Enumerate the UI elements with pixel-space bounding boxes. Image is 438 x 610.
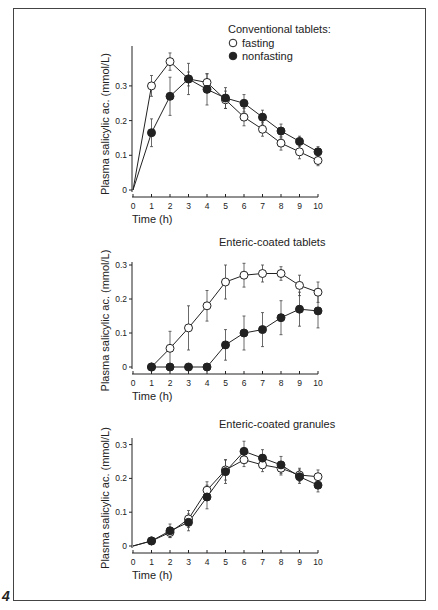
- filled-circle-marker: [314, 481, 322, 489]
- filled-circle-marker: [259, 454, 267, 462]
- filled-circle-marker: [148, 537, 156, 545]
- filled-circle-marker: [166, 527, 174, 535]
- x-tick-label: 6: [242, 557, 247, 567]
- y-tick-label: 0.2: [115, 473, 127, 483]
- y-tick-label: 0.1: [115, 507, 127, 517]
- x-tick-label: 1: [149, 557, 154, 567]
- x-tick-label: 4: [205, 557, 210, 567]
- filled-circle-marker: [240, 447, 248, 455]
- x-tick-label: 9: [297, 557, 302, 567]
- series-nonfasting: [133, 441, 320, 546]
- open-circle-marker: [314, 473, 322, 481]
- x-tick-label: 3: [186, 557, 191, 567]
- chart-title: Enteric-coated granules: [219, 418, 336, 430]
- filled-circle-marker: [222, 468, 230, 476]
- x-tick-label: 8: [279, 557, 284, 567]
- filled-circle-marker: [277, 461, 285, 469]
- x-tick-label: 10: [313, 557, 323, 567]
- y-tick-label: 0.3: [115, 440, 127, 450]
- y-tick-label: 0: [122, 541, 127, 551]
- x-tick-label: 2: [168, 557, 173, 567]
- y-axis-title: Plasma salicylic ac. (mmol/L): [99, 427, 111, 569]
- x-axis-title: Time (h): [132, 569, 173, 581]
- open-circle-marker: [240, 456, 248, 464]
- x-tick-label: 7: [260, 557, 265, 567]
- filled-circle-marker: [203, 493, 211, 501]
- filled-circle-marker: [185, 518, 193, 526]
- x-tick-label: 0: [131, 557, 136, 567]
- filled-circle-marker: [296, 473, 304, 481]
- chart-enteric-coated-granules: 00.10.20.3012345678910Time (h)Plasma sal…: [0, 0, 438, 610]
- x-tick-label: 5: [223, 557, 228, 567]
